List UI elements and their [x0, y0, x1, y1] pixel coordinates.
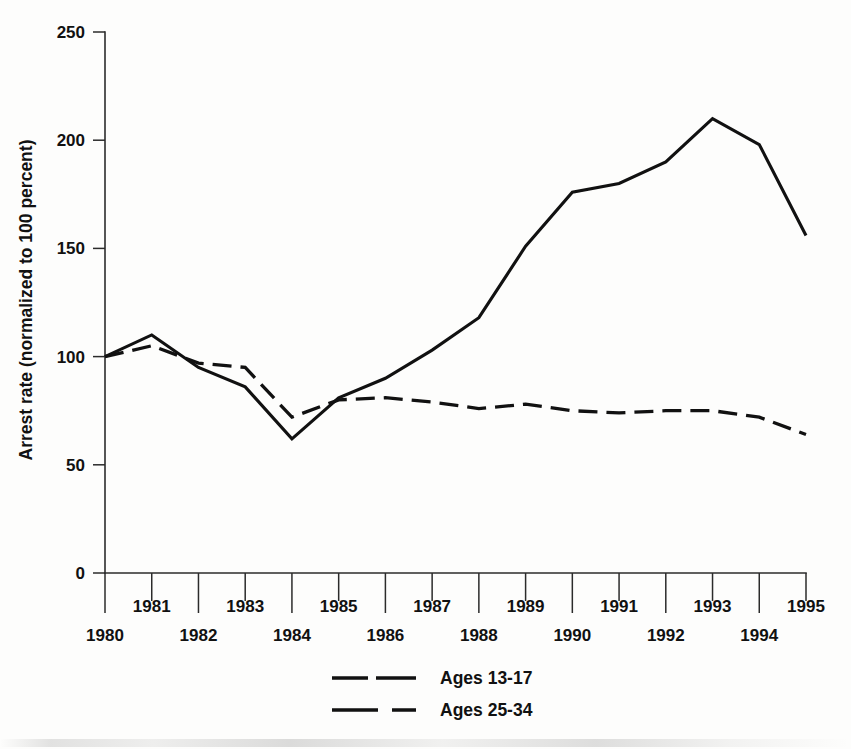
- x-tick-label-lower: 1990: [553, 626, 591, 645]
- legend-label-2: Ages 25-34: [440, 700, 533, 720]
- x-tick-label-lower: 1988: [460, 626, 498, 645]
- x-tick-label-lower: 1980: [86, 626, 124, 645]
- x-tick-label-upper: 1995: [787, 597, 825, 616]
- x-tick-label-upper: 1985: [320, 597, 358, 616]
- series-line-2: [105, 346, 806, 435]
- x-tick-label-lower: 1982: [180, 626, 218, 645]
- x-tick-label-lower: 1984: [273, 626, 311, 645]
- y-tick-label: 150: [57, 239, 85, 258]
- x-tick-label-lower: 1994: [740, 626, 778, 645]
- x-tick-label-upper: 1981: [133, 597, 171, 616]
- x-tick-label-upper: 1989: [507, 597, 545, 616]
- x-axis-ticks: 1980198119821983198419851986198719881989…: [86, 573, 825, 645]
- y-tick-label: 200: [57, 131, 85, 150]
- y-tick-label: 100: [57, 348, 85, 367]
- x-tick-label-upper: 1993: [694, 597, 732, 616]
- y-axis-title: Arrest rate (normalized to 100 percent): [16, 140, 36, 461]
- line-chart: 050100150200250 198019811982198319841985…: [0, 0, 851, 749]
- series-group: [105, 119, 806, 439]
- y-tick-label: 0: [76, 564, 85, 583]
- y-tick-label: 50: [66, 456, 85, 475]
- y-tick-label: 250: [57, 23, 85, 42]
- x-tick-label-upper: 1991: [600, 597, 638, 616]
- legend-label-1: Ages 13-17: [440, 668, 532, 688]
- series-line-1: [105, 119, 806, 439]
- x-tick-label-upper: 1983: [226, 597, 264, 616]
- x-tick-label-lower: 1992: [647, 626, 685, 645]
- x-tick-label-upper: 1987: [413, 597, 451, 616]
- chart-legend: Ages 13-17Ages 25-34: [332, 668, 533, 720]
- axis-frame: [105, 32, 806, 573]
- figure-canvas: 050100150200250 198019811982198319841985…: [0, 0, 851, 749]
- x-tick-label-lower: 1986: [366, 626, 404, 645]
- y-axis-ticks: 050100150200250: [57, 23, 105, 583]
